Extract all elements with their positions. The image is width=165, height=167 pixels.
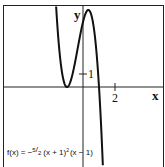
chart: x y 21 f(x) = −5/2(x + 1)2(x − 1) <box>0 0 165 167</box>
x-tick-label: 2 <box>112 91 118 105</box>
formula-tail: (x − 1) <box>70 148 93 157</box>
formula-sup: 2 <box>66 147 69 153</box>
y-axis-label: y <box>74 7 81 22</box>
y-tick-label: 1 <box>88 67 94 81</box>
function-curve <box>56 6 103 165</box>
formula-suffix: (x + 1) <box>43 148 66 157</box>
formula-prefix: f(x) = − <box>7 148 33 157</box>
formula-frac-den: 2 <box>38 150 42 156</box>
function-formula: f(x) = −5/2(x + 1)2(x − 1) <box>7 145 93 157</box>
x-axis-label: x <box>152 88 159 103</box>
